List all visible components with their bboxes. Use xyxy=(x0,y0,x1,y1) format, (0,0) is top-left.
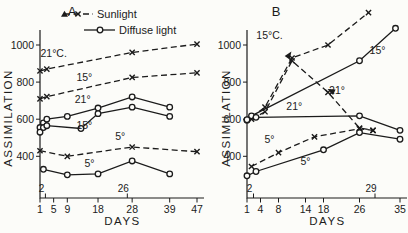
x-tick-label: 4 xyxy=(258,203,264,215)
x-tick-label: 35 xyxy=(394,203,406,215)
circle-marker-icon xyxy=(167,171,173,177)
y-axis-title: ASSIMILATION xyxy=(220,69,232,167)
circle-marker-icon xyxy=(357,130,363,136)
x-tick-label: 26 xyxy=(354,203,366,215)
circle-marker-icon xyxy=(357,58,363,64)
series-diffuse-21-label: 21° xyxy=(286,100,302,112)
y-tick-label: 400 xyxy=(16,150,34,162)
panel-a-chart: 400600800100015918283947226DAYSASSIMILAT… xyxy=(0,0,204,233)
series-diffuse-21-line xyxy=(247,116,400,130)
circle-marker-icon xyxy=(244,117,250,123)
x-tick-label: 9 xyxy=(64,203,70,215)
series-diffuse-21-label: 21° xyxy=(75,93,91,105)
y-tick-label: 1000 xyxy=(218,39,242,51)
x-marker-icon xyxy=(249,164,254,169)
x-tick-label: 18 xyxy=(318,203,330,215)
series-sunlight-21-line xyxy=(252,61,374,131)
y-tick-label: 600 xyxy=(16,113,34,125)
circle-marker-icon xyxy=(97,27,103,33)
panel-letter: B xyxy=(272,4,281,19)
x-tick-label: 5 xyxy=(51,203,57,215)
x-marker-icon xyxy=(366,10,371,15)
assimilation-figure: 400600800100015918283947226DAYSASSIMILAT… xyxy=(0,0,408,233)
x-axis-title: DAYS xyxy=(104,215,140,227)
series-diffuse-15-label: 15° xyxy=(76,119,92,131)
legend-sunlight-label: Sunlight xyxy=(97,8,137,20)
x-marker-icon xyxy=(276,150,281,155)
event-day-label: 2 xyxy=(247,183,253,194)
legend: SunlightDiffuse light xyxy=(61,8,176,36)
circle-marker-icon xyxy=(167,104,173,110)
circle-marker-icon xyxy=(129,104,135,110)
circle-marker-icon xyxy=(397,128,403,134)
circle-marker-icon xyxy=(253,169,259,175)
circle-marker-icon xyxy=(253,115,259,121)
y-tick-label: 800 xyxy=(16,76,34,88)
series-sunlight-5-line xyxy=(40,147,197,156)
circle-marker-icon xyxy=(129,94,135,100)
circle-marker-icon xyxy=(95,171,101,177)
x-tick-label: 1 xyxy=(37,203,43,215)
event-day-label: 26 xyxy=(118,183,130,194)
legend-diffuse-light-label: Diffuse light xyxy=(119,24,176,36)
series-diffuse-15-line xyxy=(247,28,396,120)
x-tick-label: 47 xyxy=(191,203,203,215)
series-diffuse-5-label: 5° xyxy=(300,155,310,167)
circle-marker-icon xyxy=(41,166,47,172)
circle-marker-icon xyxy=(393,26,399,32)
series-diffuse-15-line xyxy=(40,107,170,132)
series-sunlight-5-markers xyxy=(37,144,199,158)
series-diffuse-5-label: 5° xyxy=(84,157,94,169)
series-diffuse-15-markers xyxy=(37,104,172,135)
circle-marker-icon xyxy=(95,105,101,111)
circle-marker-icon xyxy=(44,123,50,129)
x-tick-label: 28 xyxy=(126,203,138,215)
series-sunlight-15-line xyxy=(40,73,197,99)
y-axis-title: ASSIMILATION xyxy=(2,69,14,167)
series-sunlight-15-label: 15° xyxy=(76,71,92,83)
series-diffuse-15-label: 15° xyxy=(370,44,386,56)
event-day-label: 29 xyxy=(365,183,377,194)
circle-marker-icon xyxy=(65,172,71,178)
circle-marker-icon xyxy=(244,173,250,179)
x-tick-label: 18 xyxy=(92,203,104,215)
series-sunlight-15c-label: 15°C. xyxy=(256,29,282,41)
x-tick-label: 14 xyxy=(300,203,312,215)
series-diffuse-5-line xyxy=(43,161,169,175)
series-sunlight-21-markers xyxy=(249,58,376,133)
series-sunlight-5-label: 5° xyxy=(115,130,125,142)
x-tick-label: 39 xyxy=(164,203,176,215)
series-sunlight-5-label: 5° xyxy=(264,133,274,145)
x-tick-label: 8 xyxy=(276,203,282,215)
circle-marker-icon xyxy=(129,158,135,164)
panel-b-chart: 400600800100014814182635229DAYSASSIMILAT… xyxy=(204,0,408,233)
circle-marker-icon xyxy=(357,113,363,119)
circle-marker-icon xyxy=(44,116,50,122)
x-tick-label: 1 xyxy=(244,203,250,215)
circle-marker-icon xyxy=(65,114,71,120)
series-sunlight-21c-label: 21°C. xyxy=(40,47,66,59)
circle-marker-icon xyxy=(397,136,403,142)
circle-marker-icon xyxy=(321,147,327,153)
y-tick-label: 1000 xyxy=(11,39,35,51)
circle-marker-icon xyxy=(167,114,173,120)
x-axis-title: DAYS xyxy=(309,215,345,227)
event-day-label: 2 xyxy=(39,183,45,194)
circle-marker-icon xyxy=(95,111,101,117)
